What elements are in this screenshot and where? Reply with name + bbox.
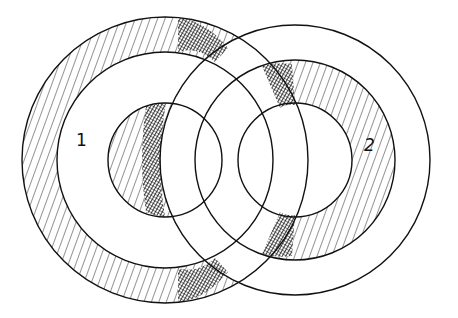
system-2-label: 2 bbox=[364, 137, 375, 154]
system-1-label: 1 bbox=[76, 132, 87, 149]
hatch-right-middle-ring bbox=[0, 0, 458, 318]
ring-diagram-svg bbox=[0, 0, 458, 318]
ring-diagram: 1 2 bbox=[0, 0, 458, 318]
